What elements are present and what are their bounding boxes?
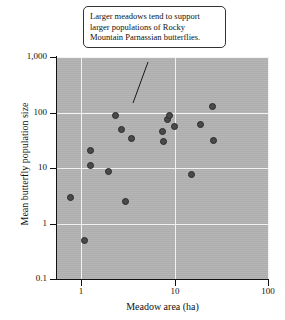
- plot-area: [57, 57, 268, 279]
- scatter-plot-figure: 0.11101001,000 110100 Meadow area (ha) M…: [0, 0, 285, 320]
- data-point: [87, 147, 94, 154]
- y-tick-label: 100: [34, 108, 48, 117]
- annotation-callout: Larger meadows tend to support larger po…: [83, 6, 226, 48]
- y-axis-title-wrapper: Mean butterfly population size: [19, 49, 31, 279]
- data-point: [159, 128, 166, 135]
- data-point: [67, 194, 74, 201]
- data-point: [188, 171, 195, 178]
- data-point: [171, 123, 178, 130]
- y-tick-label: 0.1: [36, 274, 47, 283]
- data-point: [118, 126, 125, 133]
- y-tick-mark: [50, 57, 57, 58]
- gridline-y-1,000: [57, 57, 268, 58]
- data-point: [166, 112, 173, 119]
- gridline-y-100: [57, 113, 268, 114]
- x-tick-mark: [175, 279, 176, 286]
- y-tick-mark: [50, 224, 57, 225]
- data-point: [128, 135, 135, 142]
- y-axis-title: Mean butterfly population size: [19, 49, 31, 279]
- x-tick-mark: [81, 279, 82, 286]
- x-axis-line: [56, 279, 269, 280]
- gridline-x-1: [81, 57, 82, 279]
- x-axis-title: Meadow area (ha): [57, 301, 268, 312]
- data-point: [81, 237, 88, 244]
- x-tick-mark: [268, 279, 269, 286]
- data-point: [122, 198, 129, 205]
- gridline-y-1: [57, 224, 268, 225]
- y-tick-label: 1: [43, 219, 48, 228]
- x-tick-label: 100: [248, 287, 285, 296]
- data-point: [105, 168, 112, 175]
- data-point: [210, 137, 217, 144]
- y-tick-mark: [50, 168, 57, 169]
- data-point: [209, 103, 216, 110]
- data-point: [197, 121, 204, 128]
- gridline-x-100: [268, 57, 269, 279]
- data-point: [87, 162, 94, 169]
- x-tick-label: 10: [155, 287, 195, 296]
- annotation-text: Larger meadows tend to support larger po…: [90, 11, 220, 43]
- data-point: [112, 112, 119, 119]
- x-tick-label: 1: [61, 287, 101, 296]
- gridline-x-10: [175, 57, 176, 279]
- y-tick-mark: [50, 113, 57, 114]
- data-point: [160, 138, 167, 145]
- y-tick-label: 10: [38, 163, 47, 172]
- y-tick-mark: [50, 279, 57, 280]
